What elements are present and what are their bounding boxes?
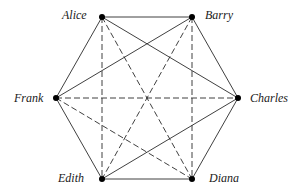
node-label-charles: Charles xyxy=(250,92,288,104)
edge-edith-frank xyxy=(56,98,102,179)
node-frank xyxy=(53,95,59,101)
edge-barry-charles xyxy=(192,17,238,98)
node-label-alice: Alice xyxy=(62,9,87,21)
node-edith xyxy=(99,176,105,182)
node-label-edith: Edith xyxy=(58,172,84,184)
node-label-frank: Frank xyxy=(14,92,43,104)
node-label-diana: Diana xyxy=(209,172,239,184)
edges-group xyxy=(56,17,238,179)
edge-alice-frank xyxy=(56,17,102,98)
node-charles xyxy=(235,95,241,101)
node-diana xyxy=(189,176,195,182)
edge-charles-diana xyxy=(192,98,238,179)
node-label-barry: Barry xyxy=(205,9,233,21)
node-barry xyxy=(189,14,195,20)
node-alice xyxy=(99,14,105,20)
